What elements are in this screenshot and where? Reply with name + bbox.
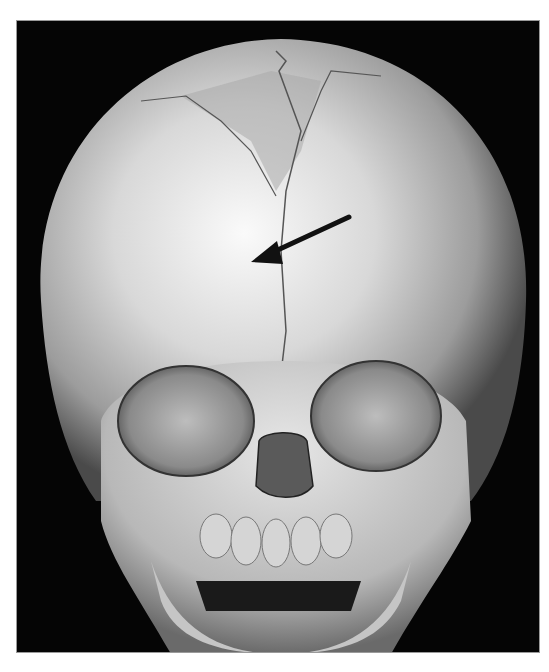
orbit-right <box>311 361 441 471</box>
ct-image-frame <box>16 20 540 653</box>
oral-gap <box>196 581 361 611</box>
orbit-left <box>118 366 254 476</box>
nasal-aperture <box>256 433 313 498</box>
skull-render <box>17 21 540 653</box>
